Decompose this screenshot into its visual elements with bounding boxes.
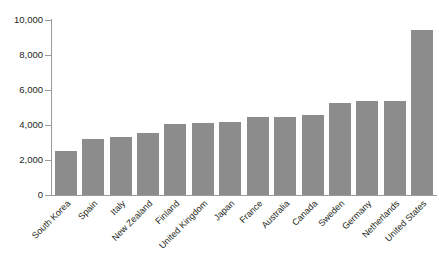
- bar-slot: [329, 20, 351, 195]
- bar-slot: [384, 20, 406, 195]
- bar-slot: [137, 20, 159, 195]
- bar-slot: [110, 20, 132, 195]
- bar: [302, 115, 324, 196]
- bar: [219, 122, 241, 196]
- bar-slot: [411, 20, 433, 195]
- x-axis-tick-label: New Zealand: [111, 199, 155, 243]
- bar-slot: [219, 20, 241, 195]
- bar: [164, 124, 186, 195]
- y-axis-tick-label: 2,000: [0, 155, 43, 165]
- x-axis-tick-label: United Kingdom: [158, 199, 210, 251]
- plot-area: [52, 20, 436, 195]
- y-axis-tick: [45, 195, 51, 196]
- bar: [137, 133, 159, 195]
- x-axis-tick-label: Japan: [213, 199, 237, 223]
- x-axis-tick-label: Spain: [77, 199, 100, 222]
- x-axis-tick-label: Netherlands: [361, 199, 402, 240]
- bar-slot: [164, 20, 186, 195]
- bar: [274, 117, 296, 195]
- bar-slot: [192, 20, 214, 195]
- bar: [411, 30, 433, 195]
- bar-slot: [55, 20, 77, 195]
- bar-slot: [247, 20, 269, 195]
- y-axis-tick: [45, 55, 51, 56]
- y-axis-tick-label: 4,000: [0, 120, 43, 130]
- y-axis-tick: [45, 90, 51, 91]
- x-axis-tick-label: Canada: [290, 199, 319, 228]
- bar: [356, 101, 378, 195]
- bar-slot: [274, 20, 296, 195]
- y-axis-tick-label: 8,000: [0, 50, 43, 60]
- y-axis-tick: [45, 160, 51, 161]
- y-axis-tick-label: 10,000: [0, 15, 43, 25]
- x-axis-tick-label: Australia: [260, 199, 291, 230]
- x-axis-tick-label: Finland: [155, 199, 182, 226]
- y-axis-tick: [45, 20, 51, 21]
- x-axis-tick-label: Italy: [109, 199, 127, 217]
- bar-slot: [356, 20, 378, 195]
- y-axis-tick-label: 0: [0, 190, 43, 200]
- x-axis-line: [51, 195, 437, 196]
- x-axis-tick-label: Germany: [341, 199, 374, 232]
- bar: [247, 117, 269, 195]
- bar: [110, 137, 132, 195]
- x-axis-tick-label: France: [238, 199, 264, 225]
- x-axis-tick-label: Sweden: [317, 199, 346, 228]
- y-axis-tick-label: 6,000: [0, 85, 43, 95]
- y-axis-tick-labels: 02,0004,0006,0008,00010,000: [0, 0, 43, 270]
- bar: [192, 123, 214, 195]
- x-axis-tick-label: United States: [384, 199, 429, 244]
- bar: [55, 151, 77, 195]
- bar: [82, 139, 104, 195]
- bar-slot: [82, 20, 104, 195]
- y-axis-tick: [45, 125, 51, 126]
- bar-chart: 02,0004,0006,0008,00010,000 South KoreaS…: [0, 0, 439, 270]
- bar: [329, 103, 351, 195]
- bar: [384, 101, 406, 196]
- bar-slot: [302, 20, 324, 195]
